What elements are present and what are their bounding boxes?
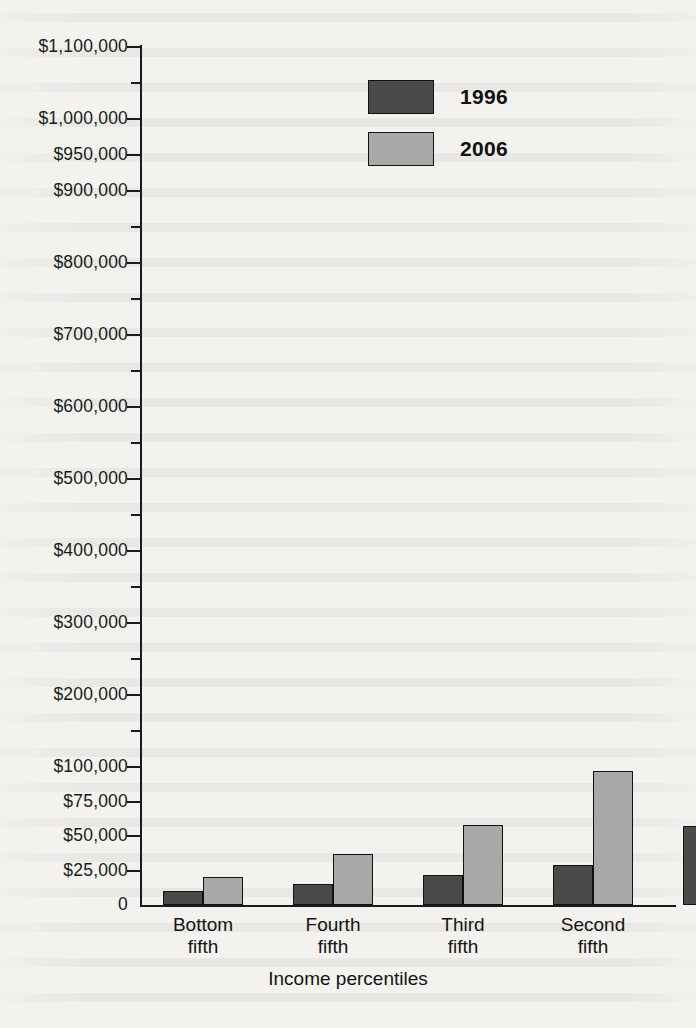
legend-label-1996: 1996	[460, 85, 508, 109]
y-axis-minor-tick	[131, 82, 140, 84]
x-axis-category-label-line: fifth	[263, 936, 403, 958]
x-axis-category-label-line: fifth	[523, 936, 663, 958]
y-axis-tick-label: $75,000	[63, 791, 128, 812]
x-axis-category-label: Secondfifth	[523, 914, 663, 959]
y-axis-tick-mark	[127, 835, 140, 837]
legend-item-1996: 1996	[368, 80, 508, 114]
legend-item-2006: 2006	[368, 132, 508, 166]
x-axis-category-label-line: fifth	[133, 936, 273, 958]
y-axis-tick-mark	[127, 262, 140, 264]
legend-swatch-1996	[368, 80, 434, 114]
y-axis-tick-label: $950,000	[53, 144, 128, 165]
y-axis-minor-tick	[131, 442, 140, 444]
legend-label-2006: 2006	[460, 137, 508, 161]
x-axis-category-label-line: Top	[653, 914, 696, 936]
bar-chart: $1,100,000$1,000,000$950,000$900,000$800…	[0, 0, 696, 1028]
y-axis-tick-mark	[127, 478, 140, 480]
y-axis-tick-label: $600,000	[53, 396, 128, 417]
y-axis-minor-tick	[131, 370, 140, 372]
legend-swatch-2006	[368, 132, 434, 166]
x-axis-category-label-line: Second	[523, 914, 663, 936]
y-axis-tick-mark	[127, 622, 140, 624]
y-axis-tick-mark	[127, 154, 140, 156]
y-axis-tick-label: $100,000	[53, 756, 128, 777]
x-axis-category-label-line: fifth	[653, 936, 696, 958]
x-axis-title: Income percentiles	[0, 968, 696, 990]
bar-2006-second-fifth	[593, 771, 633, 905]
x-axis-category-label: Topfifth	[653, 914, 696, 959]
bar-1996-bottom-fifth	[163, 891, 203, 905]
y-axis-tick-mark	[127, 334, 140, 336]
y-axis-tick-label: $300,000	[53, 612, 128, 633]
x-axis-category-label-line: Bottom	[133, 914, 273, 936]
bar-2006-third-fifth	[463, 825, 503, 905]
x-axis-category-label: Fourthfifth	[263, 914, 403, 959]
y-axis-tick-mark	[127, 406, 140, 408]
y-axis-minor-tick	[131, 298, 140, 300]
y-axis-tick-mark	[127, 550, 140, 552]
y-axis-tick-label: $25,000	[63, 860, 128, 881]
y-axis-tick-mark	[127, 694, 140, 696]
bar-1996-fourth-fifth	[293, 884, 333, 905]
y-axis-tick-label: $1,100,000	[38, 36, 128, 57]
bar-2006-bottom-fifth	[203, 877, 243, 905]
bar-1996-third-fifth	[423, 875, 463, 905]
y-axis-minor-tick	[131, 514, 140, 516]
y-axis-tick-label: $700,000	[53, 324, 128, 345]
y-axis-tick-mark	[127, 801, 140, 803]
x-axis-line	[140, 905, 676, 907]
y-axis-tick-label: $200,000	[53, 684, 128, 705]
y-axis-zero-label: 0	[118, 894, 128, 915]
bar-1996-top-fifth	[683, 826, 696, 905]
y-axis-tick-mark	[127, 766, 140, 768]
y-axis-tick-mark	[127, 46, 140, 48]
bar-2006-fourth-fifth	[333, 854, 373, 905]
bar-1996-second-fifth	[553, 865, 593, 905]
x-axis-category-label: Bottomfifth	[133, 914, 273, 959]
chart-legend: 19962006	[368, 80, 568, 170]
y-axis-tick-mark	[127, 118, 140, 120]
y-axis-minor-tick	[131, 730, 140, 732]
x-axis-category-label-line: Third	[393, 914, 533, 936]
y-axis-minor-tick	[131, 586, 140, 588]
y-axis-tick-label: $900,000	[53, 180, 128, 201]
y-axis-minor-tick	[131, 226, 140, 228]
y-axis-tick-mark	[127, 870, 140, 872]
y-axis-line	[140, 45, 142, 905]
x-axis-category-label-line: Fourth	[263, 914, 403, 936]
x-axis-category-label: Thirdfifth	[393, 914, 533, 959]
y-axis-tick-label: $800,000	[53, 252, 128, 273]
y-axis-tick-label: $400,000	[53, 540, 128, 561]
y-axis-tick-label: $50,000	[63, 825, 128, 846]
x-axis-category-label-line: fifth	[393, 936, 533, 958]
y-axis-tick-mark	[127, 190, 140, 192]
y-axis-tick-label: $1,000,000	[38, 108, 128, 129]
y-axis-tick-label: $500,000	[53, 468, 128, 489]
y-axis-minor-tick	[131, 658, 140, 660]
